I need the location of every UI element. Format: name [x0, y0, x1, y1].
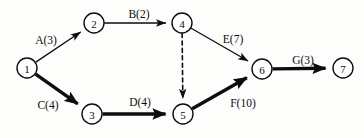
node-5: 5 — [173, 104, 193, 124]
edge-label-a: A(3) — [35, 34, 57, 47]
node-label-3: 3 — [89, 109, 95, 121]
node-label-2: 2 — [91, 18, 97, 30]
edge-dummy-4-5 — [182, 34, 183, 98]
edge-label-e: E(7) — [223, 33, 244, 46]
network-diagram-canvas: A(3)B(2)C(4)D(4)E(7)F(10)G(3) 1234567 — [0, 0, 364, 138]
edge-label-d: D(4) — [129, 96, 151, 109]
node-4: 4 — [172, 13, 192, 33]
edge-label-c: C(4) — [37, 99, 58, 112]
edge-label-g: G(3) — [292, 54, 314, 67]
node-3: 3 — [82, 104, 102, 124]
network-diagram: A(3)B(2)C(4)D(4)E(7)F(10)G(3) 1234567 — [0, 0, 364, 138]
edge-label-f: F(10) — [230, 97, 256, 110]
node-label-4: 4 — [179, 18, 185, 30]
node-label-7: 7 — [340, 63, 346, 75]
edge-g — [273, 68, 326, 69]
edge-label-b: B(2) — [128, 8, 149, 21]
node-7: 7 — [333, 58, 353, 78]
node-label-1: 1 — [24, 63, 30, 75]
node-6: 6 — [252, 59, 272, 79]
node-label-5: 5 — [180, 109, 186, 121]
node-1: 1 — [17, 58, 37, 78]
edges-layer — [36, 23, 326, 114]
node-2: 2 — [84, 13, 104, 33]
node-label-6: 6 — [259, 64, 265, 76]
